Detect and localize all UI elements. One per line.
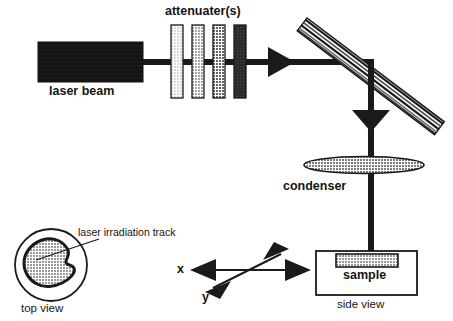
top-view-label: top view xyxy=(21,303,63,315)
irradiation-track-label: laser irradiation track xyxy=(78,227,175,238)
attenuator-plate-4 xyxy=(234,25,246,98)
sample-label: sample xyxy=(343,269,386,282)
sample-block xyxy=(336,254,398,267)
attenuator-plate-2 xyxy=(192,25,204,98)
attenuator-plate-3 xyxy=(213,25,225,98)
attenuators-label: attenuater(s) xyxy=(165,5,241,18)
beam-direction-arrowhead-icon xyxy=(268,47,295,77)
irradiation-track-blob xyxy=(24,239,74,287)
laser-beam-label: laser beam xyxy=(49,85,114,98)
condenser-lens xyxy=(304,157,424,174)
condenser-label: condenser xyxy=(283,180,346,193)
vertical-beam-arrowhead-icon xyxy=(352,110,390,132)
vertical-beam-line xyxy=(368,59,374,251)
laser-setup-diagram: attenuater(s) laser beam condenser sampl… xyxy=(0,0,453,321)
side-view-label: side view xyxy=(337,299,384,311)
axis-y-label: y xyxy=(202,291,209,304)
attenuator-plate-1 xyxy=(171,25,183,98)
laser-source-box xyxy=(38,42,143,82)
axis-x-label: x xyxy=(177,263,184,276)
